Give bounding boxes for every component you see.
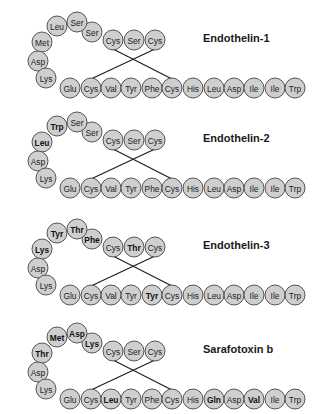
residue-his: His: [183, 285, 203, 305]
residue-cys: Cys: [81, 389, 101, 409]
residue-label: Phe: [145, 395, 160, 405]
residue-label: Thr: [127, 243, 141, 253]
residue-label: Asp: [227, 184, 242, 194]
residue-lys: Lys: [36, 275, 56, 295]
residue-label: Glu: [63, 291, 76, 301]
peptide-name: Endothelin-2: [203, 132, 270, 144]
residue-phe: Phe: [142, 389, 162, 409]
residue-leu: Leu: [32, 132, 52, 152]
residue-val: Val: [101, 178, 121, 198]
residue-trp: Trp: [47, 116, 67, 136]
residue-label: Leu: [35, 138, 50, 148]
residue-label: Ile: [250, 184, 259, 194]
residue-lys: Lys: [36, 379, 56, 399]
residue-label: Ile: [271, 184, 280, 194]
residue-label: Asp: [69, 329, 85, 339]
residue-asp: Asp: [224, 285, 244, 305]
residue-label: Asp: [227, 291, 242, 301]
residue-label: Asp: [31, 368, 46, 378]
residue-phe: Phe: [142, 78, 162, 98]
residue-cys: Cys: [145, 341, 165, 361]
peptide-sequence-diagram: CysSerCysSerSerLeuMetAspLysGluCysValTyrP…: [0, 0, 315, 414]
residue-label: Cys: [165, 395, 179, 405]
residue-label: Asp: [227, 395, 242, 405]
residue-ile: Ile: [265, 389, 285, 409]
residue-gln: Gln: [204, 389, 224, 409]
residue-thr: Thr: [32, 343, 52, 363]
residue-label: Ile: [271, 291, 280, 301]
residue-ile: Ile: [265, 178, 285, 198]
residue-label: Cys: [106, 347, 120, 357]
residue-cys: Cys: [162, 285, 182, 305]
residue-label: Asp: [31, 57, 46, 67]
residue-label: Asp: [31, 264, 46, 274]
residue-label: Cys: [165, 184, 179, 194]
residue-label: Trp: [289, 395, 302, 405]
residue-his: His: [183, 389, 203, 409]
residue-asp: Asp: [224, 178, 244, 198]
residue-label: Ile: [271, 84, 280, 94]
residue-label: Tyr: [125, 184, 137, 194]
residue-label: His: [187, 84, 199, 94]
residue-label: Lys: [40, 174, 53, 184]
residue-trp: Trp: [285, 285, 305, 305]
residue-label: Lys: [40, 385, 53, 395]
residue-label: Leu: [50, 22, 64, 32]
residue-label: Ser: [127, 36, 140, 46]
residue-trp: Trp: [285, 78, 305, 98]
residue-thr: Thr: [124, 237, 144, 257]
residue-label: Thr: [70, 225, 84, 235]
residue-label: Ile: [250, 84, 259, 94]
residue-cys: Cys: [103, 130, 123, 150]
residue-ile: Ile: [244, 178, 264, 198]
residue-label: Leu: [104, 395, 119, 405]
residue-label: Ile: [250, 291, 259, 301]
residue-label: Ser: [85, 28, 98, 38]
residue-ser: Ser: [124, 30, 144, 50]
residue-tyr: Tyr: [121, 178, 141, 198]
residue-label: Met: [35, 38, 50, 48]
residue-ile: Ile: [265, 78, 285, 98]
residue-label: Cys: [84, 184, 98, 194]
residue-cys: Cys: [81, 285, 101, 305]
residue-ile: Ile: [244, 78, 264, 98]
residue-label: Cys: [165, 291, 179, 301]
residue-label: Trp: [289, 184, 302, 194]
residue-label: Phe: [145, 184, 160, 194]
residue-ser: Ser: [124, 341, 144, 361]
residue-label: Tyr: [146, 291, 159, 301]
residue-tyr: Tyr: [121, 389, 141, 409]
peptide-name: Endothelin-1: [203, 32, 270, 44]
residue-label: Lys: [40, 74, 53, 84]
residue-label: Cys: [148, 243, 162, 253]
residue-cys: Cys: [103, 341, 123, 361]
residue-cys: Cys: [162, 78, 182, 98]
residue-met: Met: [32, 32, 52, 52]
residue-his: His: [183, 178, 203, 198]
residue-met: Met: [47, 327, 67, 347]
residue-ser: Ser: [67, 112, 87, 132]
residue-label: Val: [105, 291, 117, 301]
residue-label: Tyr: [125, 291, 137, 301]
residue-label: His: [187, 395, 199, 405]
residue-ser: Ser: [124, 130, 144, 150]
residue-label: Phe: [84, 235, 100, 245]
residue-glu: Glu: [60, 285, 80, 305]
residue-label: Tyr: [125, 84, 137, 94]
residue-val: Val: [101, 285, 121, 305]
residue-leu: Leu: [204, 78, 224, 98]
residue-glu: Glu: [60, 389, 80, 409]
residue-leu: Leu: [47, 16, 67, 36]
residue-label: Cys: [84, 395, 98, 405]
residue-label: Ser: [70, 118, 83, 128]
residue-leu: Leu: [101, 389, 121, 409]
residue-label: Ser: [70, 18, 83, 28]
residue-asp: Asp: [67, 323, 87, 343]
residue-label: Trp: [289, 291, 302, 301]
residue-label: Trp: [289, 84, 302, 94]
residue-label: Val: [248, 395, 260, 405]
residue-label: Leu: [207, 84, 221, 94]
residue-label: Leu: [207, 291, 221, 301]
peptide-name: Endothelin-3: [203, 239, 270, 251]
residue-val: Val: [244, 389, 264, 409]
